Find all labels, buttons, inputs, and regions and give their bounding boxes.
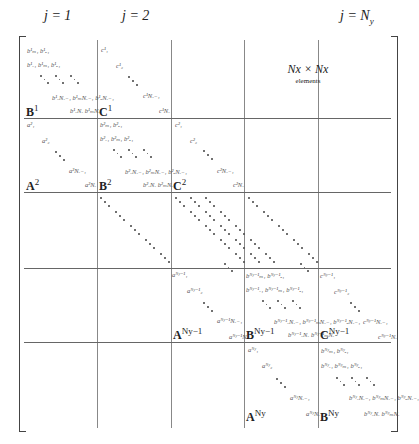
c1-3: c¹Nₓ₋₁ <box>143 92 160 100</box>
ellipsis-dot <box>209 201 211 203</box>
cNy1-3: cᴺʸ⁻¹Nₓ₋₁ <box>363 318 388 326</box>
aNy-3: aᴺʸNₓ₋₁ <box>290 394 310 402</box>
ellipsis-dot <box>211 310 213 312</box>
ellipsis-dot <box>312 257 314 259</box>
block-size-subtitle: elements <box>258 77 358 85</box>
c2-1: c²₁ <box>175 121 182 128</box>
ellipsis-dot <box>203 150 205 152</box>
ellipsis-dot <box>256 205 258 207</box>
left-bracket <box>19 36 26 432</box>
ellipsis-dot <box>205 197 207 199</box>
ellipsis-dot <box>153 247 155 249</box>
ellipsis-dot <box>224 215 226 217</box>
ellipsis-dot <box>220 211 222 213</box>
ellipsis-dot <box>254 257 256 259</box>
ellipsis-dot <box>228 247 230 249</box>
ellipsis-dot <box>117 153 119 155</box>
ellipsis-dot <box>70 75 72 77</box>
ellipsis-dot <box>351 377 353 379</box>
bNy-row2: bᴺʸₓ₁ bᴺʸₘ₁ bᴺʸₑ₁ <box>321 362 362 370</box>
ellipsis-dot <box>138 233 140 235</box>
ellipsis-dot <box>243 247 245 249</box>
ellipsis-dot <box>277 300 279 302</box>
ellipsis-dot <box>115 211 117 213</box>
aNy1-2: aᴺʸ⁻¹₂ <box>187 287 203 295</box>
cNy1-1: cᴺʸ⁻¹₁ <box>320 272 335 280</box>
bNy1-row2: bᴺʸ⁻¹ₓ₁ bᴺʸ⁻¹ₘ₁ bᴺʸ⁻¹ₑ₁ <box>246 286 303 294</box>
ellipsis-dot <box>358 310 360 312</box>
ellipsis-dot <box>267 215 269 217</box>
b2-row4: b²ₓNₓ b²ₘNₓ <box>143 181 173 189</box>
ellipsis-dot <box>336 377 338 379</box>
b1-row4: b¹ₓNₓ b¹ₘNₓ <box>70 107 100 115</box>
block-label-ANy: ANy <box>246 408 266 425</box>
ellipsis-dot <box>300 263 302 265</box>
ellipsis-dot <box>276 378 278 380</box>
ellipsis-dot <box>252 201 254 203</box>
ellipsis-dot <box>299 307 301 309</box>
ellipsis-dot <box>224 229 226 231</box>
ellipsis-dot <box>113 149 115 151</box>
ellipsis-dot <box>281 304 283 306</box>
ellipsis-dot <box>198 205 200 207</box>
ellipsis-dot <box>373 384 375 386</box>
ellipsis-dot <box>307 270 309 272</box>
a2-4: a²Nₓ <box>85 181 96 188</box>
ellipsis-dot <box>104 201 106 203</box>
grid-hline-3 <box>24 268 391 269</box>
ellipsis-dot <box>63 159 65 161</box>
grid-vline-4 <box>318 40 319 428</box>
b2-row2: b²ₓ₁ b²ₘ₁ b²ₑ₁ <box>100 135 133 143</box>
ellipsis-dot <box>228 233 230 235</box>
c2-3: c²Nₓ₋₁ <box>217 167 234 175</box>
ellipsis-dot <box>135 156 137 158</box>
c1-4: c¹Nₓ <box>159 107 170 114</box>
ellipsis-dot <box>209 229 211 231</box>
grid-vline-2 <box>171 40 172 428</box>
bNy-row3: bᴺʸₓNₓ₋₁ bᴺʸₘNₓ₋₁ bᴺʸₑNₓ₋₁ <box>349 394 419 402</box>
ellipsis-dot <box>243 261 245 263</box>
b2-row3: b²ₓNₓ₋₁ b²ₘNₓ₋₁ b²ₑNₓ₋₁ <box>125 168 187 176</box>
ellipsis-dot <box>296 304 298 306</box>
ellipsis-dot <box>231 270 233 272</box>
ellipsis-dot <box>243 233 245 235</box>
a2-2: a²₂ <box>42 137 49 144</box>
ellipsis-dot <box>228 219 230 221</box>
ellipsis-dot <box>40 75 42 77</box>
b2-row1: b²ₘ₁ b²ₑ₁ <box>100 121 122 129</box>
ellipsis-dot <box>183 205 185 207</box>
ellipsis-dot <box>59 155 61 157</box>
ellipsis-dot <box>132 153 134 155</box>
grid-hline-1 <box>24 118 391 119</box>
ellipsis-dot <box>262 300 264 302</box>
ellipsis-dot <box>358 384 360 386</box>
ellipsis-dot <box>207 154 209 156</box>
block-label-C2: C2 <box>173 177 186 194</box>
right-bracket <box>391 36 398 432</box>
ellipsis-dot <box>250 253 252 255</box>
c2-4: c²Nₓ <box>233 181 244 188</box>
ellipsis-dot <box>271 219 273 221</box>
ellipsis-dot <box>250 239 252 241</box>
ellipsis-dot <box>278 225 280 227</box>
aNy-2: aᴺʸ₂ <box>262 362 272 369</box>
ellipsis-dot <box>160 253 162 255</box>
ellipsis-dot <box>280 382 282 384</box>
ellipsis-dot <box>194 215 196 217</box>
ellipsis-dot <box>235 225 237 227</box>
ellipsis-dot <box>44 79 46 81</box>
ellipsis-dot <box>77 82 79 84</box>
ellipsis-dot <box>132 80 134 82</box>
ellipsis-dot <box>220 239 222 241</box>
ellipsis-dot <box>205 211 207 213</box>
ellipsis-dot <box>293 239 295 241</box>
ellipsis-dot <box>100 197 102 199</box>
column-header-jNy: j = Ny <box>340 8 374 26</box>
ellipsis-dot <box>128 76 130 78</box>
block-size-title: Nx × Nx <box>258 62 358 77</box>
ellipsis-dot <box>265 253 267 255</box>
ellipsis-dot <box>62 82 64 84</box>
ellipsis-dot <box>130 225 132 227</box>
ellipsis-dot <box>55 151 57 153</box>
ellipsis-dot <box>370 381 372 383</box>
